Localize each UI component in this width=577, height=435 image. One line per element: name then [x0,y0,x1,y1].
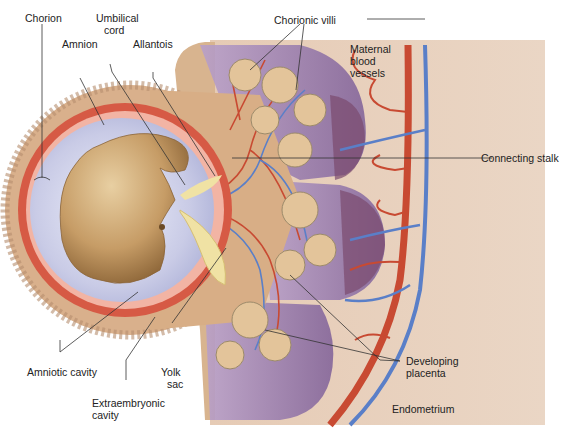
label-chorionic-villi: Chorionic villi [274,14,336,26]
label-yolk-sac-line2: sac [167,378,183,390]
label-umbilical-cord-line2: cord [104,24,124,36]
label-yolk-sac-line1: Yolk [161,366,180,378]
label-developing-placenta-line2: placenta [406,367,446,379]
label-connecting-stalk: Connecting stalk [481,152,559,164]
label-endometrium: Endometrium [392,403,454,415]
label-amnion: Amnion [62,38,98,50]
label-umbilical-cord-line1: Umbilical [96,12,139,24]
embryo-placenta-diagram: Chorion Umbilical cord Amnion Allantois … [0,0,577,435]
label-extraembryonic-cavity-line1: Extraembryonic [92,397,165,409]
label-developing-placenta-line1: Developing [406,355,459,367]
label-extraembryonic-cavity-line2: cavity [92,409,119,421]
label-maternal-blood-vessels-line3: vessels [350,67,385,79]
label-maternal-blood-vessels-line1: Maternal [350,43,391,55]
label-maternal-blood-vessels-line2: blood [350,55,376,67]
embryo-eye [159,224,165,230]
label-allantois: Allantois [133,38,173,50]
label-chorion: Chorion [25,12,62,24]
label-amniotic-cavity: Amniotic cavity [27,366,97,378]
